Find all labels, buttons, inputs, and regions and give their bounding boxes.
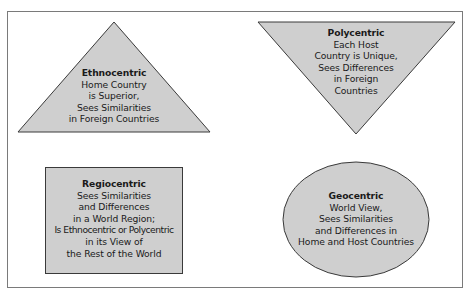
geocentric-line: and Differences in bbox=[291, 225, 421, 237]
regiocentric-line: the Rest of the World bbox=[46, 248, 182, 260]
regiocentric-line: and Differences bbox=[46, 201, 182, 213]
geocentric-title: Geocentric bbox=[291, 190, 421, 202]
ethnocentric-line: Home Country bbox=[54, 79, 174, 91]
polycentric-line: Country is Unique, bbox=[296, 50, 416, 62]
polycentric-title: Polycentric bbox=[296, 27, 416, 39]
ethnocentric-label: Ethnocentric Home Country is Superior, S… bbox=[54, 67, 174, 125]
diagram-canvas: Ethnocentric Home Country is Superior, S… bbox=[0, 0, 473, 295]
polycentric-line: Countries bbox=[296, 85, 416, 97]
regiocentric-title: Regiocentric bbox=[46, 178, 182, 190]
polycentric-line: Sees Differences bbox=[296, 62, 416, 74]
geocentric-line: Home and Host Countries bbox=[291, 236, 421, 248]
geocentric-line: Sees Similarities bbox=[291, 213, 421, 225]
polycentric-line: in Foreign bbox=[296, 73, 416, 85]
regiocentric-line: in its View of bbox=[46, 236, 182, 248]
regiocentric-line: Is Ethnocentric or Polycentric bbox=[46, 224, 182, 236]
regiocentric-label: Regiocentric Sees Similarities and Diffe… bbox=[46, 178, 182, 259]
regiocentric-line: in a World Region; bbox=[46, 213, 182, 225]
polycentric-line: Each Host bbox=[296, 39, 416, 51]
ethnocentric-line: Sees Similarities bbox=[54, 102, 174, 114]
ethnocentric-line: is Superior, bbox=[54, 90, 174, 102]
geocentric-line: World View, bbox=[291, 202, 421, 214]
ethnocentric-title: Ethnocentric bbox=[54, 67, 174, 79]
polycentric-label: Polycentric Each Host Country is Unique,… bbox=[296, 27, 416, 97]
ethnocentric-line: in Foreign Countries bbox=[54, 113, 174, 125]
geocentric-label: Geocentric World View, Sees Similarities… bbox=[291, 190, 421, 248]
regiocentric-line: Sees Similarities bbox=[46, 190, 182, 202]
